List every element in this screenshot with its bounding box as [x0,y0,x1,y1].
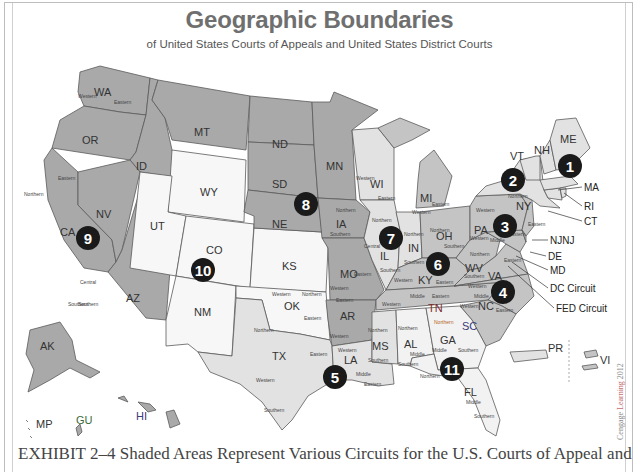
district-label: Middle [410,293,425,299]
territory-vi [582,350,598,370]
district-label: Eastern [432,293,449,299]
svg-text:7: 7 [387,230,395,247]
copyright-credit: Cengage Learning 2012 [616,363,625,440]
label-al: AL [404,338,417,350]
district-label: Northern [404,231,424,237]
district-label: Western [330,333,349,339]
district-label: Eastern [436,279,453,285]
district-label: Northern [24,191,44,197]
callout-ri: RI [584,201,594,212]
district-label: Central [364,243,380,249]
state-ar [326,300,376,346]
label-nv: NV [96,208,112,220]
label-co: CO [206,244,223,256]
district-label: Northern [434,319,454,325]
label-sd: SD [272,178,287,190]
state-ak [26,322,100,392]
label-mi: MI [420,192,432,204]
label-ks: KS [282,260,297,272]
district-label: Western [330,285,349,291]
label-ar: AR [340,310,355,322]
svg-text:10: 10 [195,262,212,279]
district-label: Eastern [114,99,131,105]
callout-md: MD [550,265,566,276]
label-mt: MT [194,126,210,138]
district-label: Middle [356,371,371,377]
label-pr: PR [548,342,563,354]
district-label: Northern [398,325,418,331]
label-ny: NY [516,200,532,212]
svg-text:4: 4 [499,284,508,301]
district-label: Western [460,303,479,309]
svg-text:5: 5 [331,369,339,386]
district-label: Eastern [304,315,321,321]
circuit-marker-6: 6 [426,252,450,276]
state-ms [372,310,398,364]
territory-pr [510,350,548,362]
state-or [52,106,146,160]
circuit-marker-2: 2 [501,168,525,192]
circuit-marker-9: 9 [76,226,100,250]
district-label: Western [476,207,495,213]
district-label: Western [338,347,357,353]
district-label: Southern [330,231,351,237]
label-mn: MN [326,160,343,172]
label-il: IL [380,250,389,262]
circuit-marker-8: 8 [294,192,318,216]
district-label: Western [272,291,291,297]
district-label: Middle [474,293,489,299]
district-label: Middle [410,351,425,357]
callout-fed-circuit: FED Circuit [556,303,607,314]
district-label: Southern [458,347,479,353]
circuit-marker-5: 5 [323,365,347,389]
exhibit-caption: EXHIBIT 2–4 Shaded Areas Represent Vario… [18,444,632,464]
district-label: Southern [264,407,285,413]
callout-de: DE [548,251,562,262]
label-vt: VT [510,150,524,162]
district-label: Western [468,283,487,289]
district-label: Northern [420,373,440,379]
district-label: Southern [444,243,465,249]
district-label: Southern [368,357,389,363]
label-ia: IA [336,218,347,230]
label-hi: HI [136,410,147,422]
label-sc: SC [462,320,477,332]
svg-text:2: 2 [509,172,517,189]
label-la: LA [344,354,358,366]
circuit-marker-3: 3 [493,214,517,238]
label-mp: MP [36,418,53,430]
district-label: Eastern [528,221,545,227]
label-ga: GA [440,334,457,346]
circuit-marker-7: 7 [379,226,403,250]
state-hi [118,396,180,428]
svg-text:9: 9 [84,230,92,247]
district-label: Southern [68,301,89,307]
district-label: Northern [302,291,322,297]
callout-nj: NJNJ [550,235,574,246]
svg-text:1: 1 [566,158,574,175]
svg-text:3: 3 [501,218,509,235]
label-nm: NM [194,306,211,318]
district-label: Northern [368,327,388,333]
district-label: Eastern [336,297,353,303]
label-ut: UT [150,220,165,232]
svg-text:11: 11 [444,361,460,378]
district-label: Western [412,209,431,215]
callout-ct: CT [584,216,597,227]
district-label: Middle [466,399,481,405]
district-label: Western [470,235,489,241]
label-va: VA [488,270,503,282]
district-label: Middle [490,237,505,243]
circuit-marker-4: 4 [491,280,515,304]
district-label: Northern [372,217,392,223]
district-label: Middle [432,347,447,353]
label-nc: NC [478,300,494,312]
district-label: Eastern [58,175,75,181]
label-ms: MS [372,340,389,352]
district-label: Western [356,175,375,181]
district-label: Northern [430,227,450,233]
label-me: ME [560,133,577,145]
circuit-marker-10: 10 [191,258,215,282]
district-label: Southern [380,267,401,273]
district-label: Northern [470,251,490,257]
